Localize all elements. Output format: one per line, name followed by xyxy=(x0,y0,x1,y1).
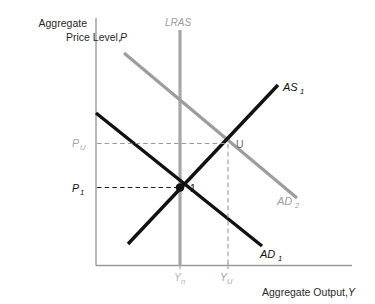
curve-label-lras-text: LRAS xyxy=(165,17,191,28)
aggregate-demand-supply-diagram: Aggregate Price Level, P Aggregate Outpu… xyxy=(0,0,375,304)
x-axis-title-variable: Y xyxy=(348,286,356,298)
y-axis-title: Aggregate Price Level, P xyxy=(39,17,127,43)
y-axis-title-variable: P xyxy=(120,31,127,43)
curve-ad2 xyxy=(124,53,297,198)
y-tick-label-pu-sub: U xyxy=(80,143,86,152)
curve-label-ad2-sub: 2 xyxy=(294,201,300,210)
point-label-1: 1 xyxy=(190,182,196,194)
y-tick-label-p1-main: P xyxy=(72,182,79,194)
point-marker-1 xyxy=(176,183,185,192)
y-tick-label-p1-sub: 1 xyxy=(80,188,84,197)
x-tick-label-yn-sub: n xyxy=(181,277,185,286)
curve-label-ad2-main: AD xyxy=(276,195,292,207)
x-axis-title: Aggregate Output, Y xyxy=(262,286,356,298)
chart-canvas: Aggregate Price Level, P Aggregate Outpu… xyxy=(0,0,375,304)
y-axis-title-line2: Price Level, xyxy=(66,31,121,43)
y-tick-label-pu-main: P xyxy=(72,137,79,149)
curve-label-as1-main: AS xyxy=(282,81,298,93)
x-tick-label-yu-sub: U xyxy=(227,277,233,286)
y-tick-label-p1: P 1 xyxy=(72,182,84,197)
curve-label-ad1-main: AD xyxy=(259,248,275,260)
x-axis-title-main: Aggregate Output, xyxy=(262,286,348,298)
y-axis-title-line1: Aggregate xyxy=(39,17,88,29)
curve-label-ad1: AD 1 xyxy=(259,248,282,263)
curve-label-ad1-sub: 1 xyxy=(278,254,282,263)
curve-label-as1-sub: 1 xyxy=(300,87,304,96)
point-label-u: U xyxy=(236,138,244,150)
curve-label-as1: AS 1 xyxy=(282,81,304,96)
x-tick-label-yn: Y n xyxy=(174,271,185,286)
curve-label-lras: LRAS xyxy=(165,17,191,28)
y-tick-label-pu: P U xyxy=(72,137,86,152)
x-tick-label-yu: Y U xyxy=(220,271,233,286)
